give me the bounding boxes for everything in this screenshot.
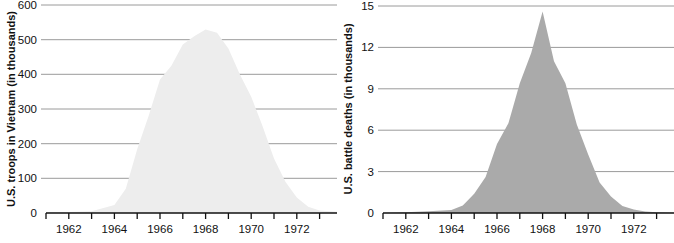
xtick-label: 1962	[56, 223, 82, 235]
ytick-label: 12	[361, 41, 374, 53]
xtick-label: 1972	[621, 223, 647, 235]
ytick-label: 200	[18, 138, 37, 150]
troops-area	[46, 29, 337, 213]
deaths-y-axis-title: U.S. battle deaths (in thousands)	[342, 23, 354, 194]
troops-xtick-labels: 1962 1964 1966 1968 1970 1972	[56, 223, 310, 235]
deaths-y-axis	[378, 6, 383, 172]
deaths-xtick-labels: 1962 1964 1966 1968 1970 1972	[393, 223, 647, 235]
ytick-label: 300	[18, 103, 37, 115]
ytick-label: 100	[18, 172, 37, 184]
ytick-label: 3	[368, 166, 374, 178]
troops-chart-svg: 600 500 400 300 200 100 0 1962 1964 1966…	[0, 0, 337, 243]
deaths-chart-svg: 15 12 9 6 3 0 1962 1964 1966 1968 1970 1…	[337, 0, 674, 243]
xtick-label: 1972	[284, 223, 310, 235]
ytick-label: 9	[368, 83, 374, 95]
ytick-label: 400	[18, 68, 37, 80]
ytick-label: 6	[368, 124, 374, 136]
troops-y-axis-title: U.S. troops in Vietnam (in thousands)	[5, 11, 17, 207]
xtick-label: 1970	[575, 223, 601, 235]
deaths-area	[383, 11, 674, 213]
xtick-label: 1966	[147, 223, 173, 235]
troops-ytick-labels: 600 500 400 300 200 100 0	[18, 0, 37, 219]
dual-area-chart-figure: 600 500 400 300 200 100 0 1962 1964 1966…	[0, 0, 674, 243]
deaths-x-axis	[383, 213, 674, 219]
troops-x-axis	[46, 213, 337, 219]
xtick-label: 1970	[238, 223, 264, 235]
xtick-label: 1962	[393, 223, 419, 235]
ytick-label: 600	[18, 0, 37, 11]
xtick-label: 1964	[439, 223, 465, 235]
xtick-label: 1968	[530, 223, 556, 235]
ytick-label: 0	[31, 207, 37, 219]
deaths-panel: 15 12 9 6 3 0 1962 1964 1966 1968 1970 1…	[337, 0, 674, 243]
troops-panel: 600 500 400 300 200 100 0 1962 1964 1966…	[0, 0, 337, 243]
deaths-ytick-labels: 15 12 9 6 3 0	[361, 0, 374, 219]
ytick-label: 15	[361, 0, 374, 12]
troops-y-axis	[41, 5, 46, 213]
xtick-label: 1968	[193, 223, 219, 235]
xtick-label: 1964	[102, 223, 128, 235]
xtick-label: 1966	[484, 223, 510, 235]
ytick-label: 0	[368, 207, 374, 219]
ytick-label: 500	[18, 34, 37, 46]
